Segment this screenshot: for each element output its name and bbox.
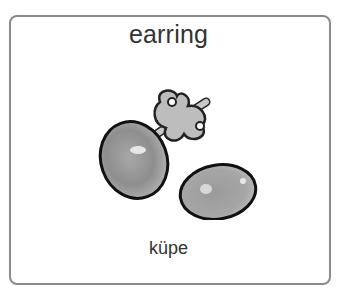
card-title: earring [0,20,337,49]
card-translation: küpe [0,238,337,259]
earring-icon [60,80,280,220]
